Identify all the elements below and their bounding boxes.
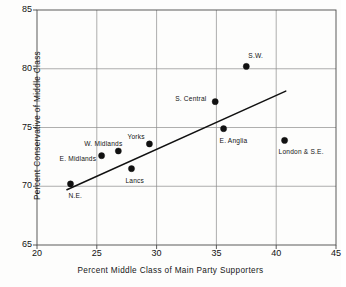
y-tick-label-65: 65 <box>6 239 32 249</box>
point-label-lancs: Lancs <box>125 177 144 184</box>
point-label-e-midlands: E. Midlands <box>60 155 97 162</box>
y-tick-label-70: 70 <box>6 180 32 190</box>
x-tick-label-30: 30 <box>142 248 172 258</box>
grid-lines <box>37 10 336 245</box>
y-axis-title: Percent Conservative of Middle Class <box>33 6 42 246</box>
data-points <box>67 63 287 187</box>
x-tick-label-35: 35 <box>201 248 231 258</box>
point-label-s-w: S.W. <box>248 52 263 59</box>
point-label-s-central: S. Central <box>175 95 206 102</box>
x-axis-title: Percent Middle Class of Main Party Suppo… <box>0 266 341 275</box>
point-label-w-midlands: W. Midlands <box>84 140 122 147</box>
y-tick-label-80: 80 <box>6 63 32 73</box>
y-tick-label-85: 85 <box>6 4 32 14</box>
tick-marks <box>33 10 336 249</box>
point-label-london-s-e: London & S.E. <box>279 148 324 155</box>
point-label-n-e: N.E. <box>68 192 82 199</box>
point-label-yorks: Yorks <box>127 133 144 140</box>
x-tick-label-25: 25 <box>82 248 112 258</box>
y-tick-label-75: 75 <box>6 122 32 132</box>
x-tick-label-45: 45 <box>321 248 346 258</box>
x-tick-label-40: 40 <box>261 248 291 258</box>
x-tick-label-20: 20 <box>22 248 52 258</box>
point-label-e-anglia: E. Anglia <box>220 137 248 144</box>
